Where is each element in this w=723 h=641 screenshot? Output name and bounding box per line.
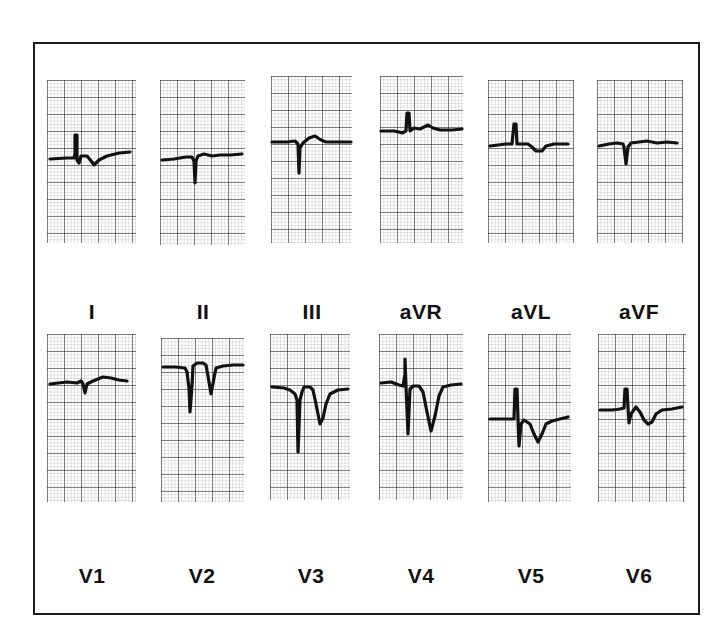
ecg-strip-lead-V5 (488, 334, 571, 502)
ecg-strip-lead-V4 (379, 334, 463, 500)
lead-label-V4: V4 (376, 564, 466, 588)
ecg-trace-lead-I (47, 80, 136, 243)
ecg-trace-lead-V3 (270, 334, 350, 500)
ecg-strip-lead-V6 (598, 334, 686, 502)
ecg-trace-lead-V5 (488, 334, 571, 502)
ecg-strip-lead-aVF (597, 80, 683, 243)
lead-label-aVF: aVF (594, 300, 684, 324)
ecg-trace-lead-V1 (47, 334, 136, 502)
ecg-trace-lead-III (271, 76, 352, 243)
lead-label-V1: V1 (47, 564, 137, 588)
lead-label-V6: V6 (594, 564, 684, 588)
ecg-strip-lead-II (160, 80, 245, 245)
lead-label-V5: V5 (486, 564, 576, 588)
ecg-strip-lead-I (47, 80, 136, 243)
ecg-strip-lead-V3 (270, 334, 350, 500)
lead-label-V3: V3 (266, 564, 356, 588)
ecg-strip-lead-aVR (380, 76, 463, 243)
ecg-trace-lead-V6 (598, 334, 686, 502)
ecg-strip-lead-V2 (161, 338, 244, 502)
ecg-trace-lead-V4 (379, 334, 463, 500)
lead-label-I: I (47, 300, 137, 324)
ecg-strip-lead-aVL (488, 80, 574, 243)
ecg-strip-lead-III (271, 76, 352, 243)
lead-label-aVL: aVL (486, 300, 576, 324)
ecg-trace-lead-aVF (597, 80, 683, 243)
ecg-strip-lead-V1 (47, 334, 136, 502)
ecg-trace-lead-aVL (488, 80, 574, 243)
ecg-trace-lead-aVR (380, 76, 463, 243)
lead-label-II: II (158, 300, 248, 324)
ecg-trace-lead-V2 (161, 338, 244, 502)
lead-label-V2: V2 (157, 564, 247, 588)
lead-label-aVR: aVR (376, 300, 466, 324)
lead-label-III: III (267, 300, 357, 324)
ecg-trace-lead-II (160, 80, 245, 245)
